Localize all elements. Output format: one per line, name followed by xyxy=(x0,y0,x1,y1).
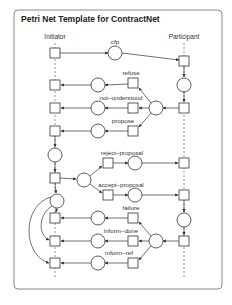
diagram-title: Petri Net Template for ContractNet xyxy=(21,14,160,24)
accept-proposal-label: accept–proposal xyxy=(98,181,143,188)
petri-net-diagram: Petri Net Template for ContractNet Initi… xyxy=(0,0,232,305)
refuse-transition xyxy=(128,78,138,88)
participant-state-place-1 xyxy=(177,78,191,92)
reject-proposal-transition xyxy=(103,158,113,168)
initiator-propose-transition xyxy=(50,126,60,136)
not-understood-place xyxy=(91,101,105,115)
initiator-failure-transition xyxy=(50,213,60,223)
initiator-inform-done-transition xyxy=(50,236,60,246)
refuse-label: refuse xyxy=(122,69,140,76)
cfp-label: cfp xyxy=(111,38,120,45)
participant-choice-place-2 xyxy=(149,234,163,248)
participant-label: Participant xyxy=(169,33,200,41)
initiator-cfp-transition xyxy=(50,48,60,58)
participant-perform-place xyxy=(177,213,191,227)
failure-place xyxy=(91,211,105,225)
reject-proposal-label: reject–proposal xyxy=(101,149,143,156)
inform-done-place xyxy=(91,234,105,248)
participant-choice-place-1 xyxy=(149,101,163,115)
initiator-label: Initiator xyxy=(44,33,66,40)
inform-ref-place xyxy=(91,256,105,270)
cfp-place xyxy=(108,46,122,60)
reject-proposal-place xyxy=(128,156,142,170)
initiator-choice-place xyxy=(77,173,91,187)
inform-done-transition xyxy=(128,236,138,246)
inform-ref-label: inform–ref xyxy=(105,249,133,256)
participant-accept-transition xyxy=(179,190,189,200)
initiator-refuse-transition xyxy=(50,80,60,90)
participant-result-transition xyxy=(179,236,189,246)
participant-reject-transition xyxy=(179,158,189,168)
initiator-inform-ref-transition xyxy=(50,258,60,268)
propose-place xyxy=(91,124,105,138)
participant-cfp-transition xyxy=(179,56,189,66)
not-understood-transition xyxy=(128,103,138,113)
initiator-evaluate-place xyxy=(48,148,62,162)
initiator-not-understood-transition xyxy=(50,103,60,113)
initiator-await-result-place xyxy=(50,194,64,208)
accept-proposal-place xyxy=(128,188,142,202)
not-understood-label: not–understood xyxy=(99,94,143,101)
failure-label: failure xyxy=(123,204,140,211)
inform-ref-transition xyxy=(128,258,138,268)
inform-done-label: inform–done xyxy=(104,227,139,234)
refuse-place xyxy=(91,78,105,92)
propose-label: propose xyxy=(112,117,135,124)
failure-transition xyxy=(128,213,138,223)
accept-proposal-transition xyxy=(103,190,113,200)
initiator-decide-transition xyxy=(50,173,60,183)
participant-respond-transition xyxy=(179,103,189,113)
propose-transition xyxy=(128,126,138,136)
